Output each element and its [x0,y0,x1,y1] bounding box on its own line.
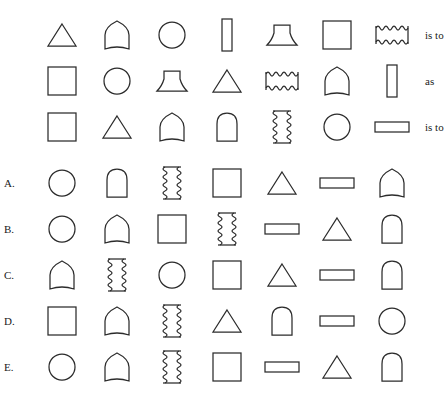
optA-cell-6 [364,160,419,206]
optE-cell-6 [364,344,419,390]
wavy-horizontal-icon [374,22,410,48]
rounded-arch-icon [214,111,240,143]
stem-rows-container: is toasis to [0,0,442,150]
wavy-vertical-icon [159,349,185,385]
wavy-vertical-icon [159,165,185,201]
triangle-icon [211,67,243,95]
answer-option-D[interactable]: D. [0,298,442,344]
optC-cell-1 [89,252,144,298]
optC-cell-6 [364,252,419,298]
circle-icon [102,66,132,96]
stem1-cell-0 [34,12,89,58]
stem3-cell-3 [199,104,254,150]
vertical-bar-icon [219,17,235,53]
square-icon [321,19,353,51]
optE-cell-3 [199,344,254,390]
option-label-E: E. [0,361,34,373]
triangle-icon [101,113,133,141]
pointed-arch-icon [377,167,407,199]
pointed-arch-icon [157,111,187,143]
stem2-cell-0 [34,58,89,104]
rounded-arch-icon [379,259,405,291]
pointed-arch-icon [322,65,352,97]
answer-option-A[interactable]: A. [0,160,442,206]
optA-cell-0 [34,160,89,206]
horizontal-rect-icon [263,359,301,375]
optB-cell-2 [144,206,199,252]
optE-cell-4 [254,344,309,390]
stem-row-3: is to [0,104,442,150]
stem2-cell-6 [364,58,419,104]
option-label-A: A. [0,177,34,189]
triangle-icon [321,353,353,381]
pointed-arch-icon [47,259,77,291]
stem3-cell-2 [144,104,199,150]
rounded-arch-icon [104,167,130,199]
optD-cell-2 [144,298,199,344]
optD-cell-6 [364,298,419,344]
triangle-icon [266,261,298,289]
horizontal-rect-icon [263,221,301,237]
optC-cell-4 [254,252,309,298]
optD-cell-3 [199,298,254,344]
answer-option-E[interactable]: E. [0,344,442,390]
optB-cell-0 [34,206,89,252]
option-label-B: B. [0,223,34,235]
square-icon [46,111,78,143]
rounded-arch-icon [269,305,295,337]
trapezoid-icon [155,68,189,94]
optA-cell-4 [254,160,309,206]
square-icon [211,167,243,199]
pointed-arch-icon [102,351,132,383]
optB-cell-4 [254,206,309,252]
optD-cell-1 [89,298,144,344]
optC-cell-3 [199,252,254,298]
circle-icon [377,306,407,336]
optD-cell-5 [309,298,364,344]
stem1-cell-6 [364,12,419,58]
square-icon [211,351,243,383]
circle-icon [157,20,187,50]
connector-text-3: is to [419,121,448,133]
optC-cell-2 [144,252,199,298]
triangle-icon [211,307,243,335]
wavy-horizontal-icon [264,68,300,94]
horizontal-rect-icon [318,175,356,191]
stem3-cell-0 [34,104,89,150]
horizontal-rect-icon [318,313,356,329]
vertical-bar-icon [384,63,400,99]
stem1-cell-3 [199,12,254,58]
option-label-D: D. [0,315,34,327]
rounded-arch-icon [379,351,405,383]
optB-cell-1 [89,206,144,252]
answer-option-B[interactable]: B. [0,206,442,252]
stem2-cell-2 [144,58,199,104]
wavy-vertical-icon [269,109,295,145]
optA-cell-3 [199,160,254,206]
stem3-cell-1 [89,104,144,150]
optD-cell-4 [254,298,309,344]
optA-cell-2 [144,160,199,206]
stem1-cell-2 [144,12,199,58]
stem2-cell-5 [309,58,364,104]
optA-cell-5 [309,160,364,206]
optD-cell-0 [34,298,89,344]
optE-cell-5 [309,344,364,390]
circle-icon [322,112,352,142]
wavy-vertical-icon [159,303,185,339]
optE-cell-0 [34,344,89,390]
pointed-arch-icon [102,213,132,245]
circle-icon [157,260,187,290]
optC-cell-5 [309,252,364,298]
trapezoid-icon [265,22,299,48]
stem2-cell-4 [254,58,309,104]
optB-cell-6 [364,206,419,252]
answer-option-C[interactable]: C. [0,252,442,298]
optE-cell-1 [89,344,144,390]
square-icon [211,259,243,291]
pointed-arch-icon [102,19,132,51]
circle-icon [47,214,77,244]
stem2-cell-1 [89,58,144,104]
optC-cell-0 [34,252,89,298]
